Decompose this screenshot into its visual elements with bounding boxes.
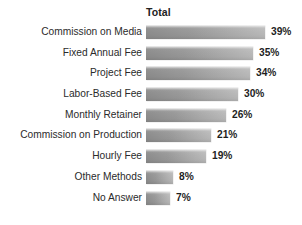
bar [146,66,250,80]
bar [146,149,206,163]
bar [146,25,265,39]
bar-wrapper [146,170,173,184]
category-label: Other Methods [75,169,142,184]
chart-row: Fixed Annual Fee35% [0,45,302,66]
bar [146,87,238,101]
bar [146,108,226,122]
bar [146,191,170,205]
plot-area: Commission on Media39%Fixed Annual Fee35… [0,24,302,220]
chart-row: Labor-Based Fee30% [0,86,302,107]
category-label: Labor-Based Fee [63,86,142,101]
bar-wrapper [146,25,265,39]
bar-wrapper [146,128,211,142]
bar [146,170,173,184]
chart-row: Commission on Media39% [0,24,302,45]
bar [146,128,211,142]
category-label: Commission on Media [41,24,142,39]
bar-value-label: 35% [259,45,279,60]
category-label: Fixed Annual Fee [63,45,142,60]
bar-value-label: 30% [244,86,264,101]
bar-wrapper [146,191,170,205]
bar [146,46,253,60]
chart-row: Hourly Fee19% [0,148,302,169]
chart-row: Commission on Production21% [0,127,302,148]
bar-wrapper [146,46,253,60]
bar-value-label: 34% [256,65,276,80]
bar-wrapper [146,66,250,80]
bar-value-label: 39% [271,24,291,39]
bar-value-label: 21% [217,127,237,142]
series-column-header: Total [146,6,171,18]
chart-row: Project Fee34% [0,65,302,86]
category-label: Project Fee [90,65,142,80]
category-label: No Answer [93,190,142,205]
bar-value-label: 26% [232,107,252,122]
chart-row: Other Methods8% [0,169,302,190]
category-label: Commission on Production [20,127,142,142]
bar-value-label: 7% [176,190,191,205]
bar-wrapper [146,87,238,101]
bar-value-label: 19% [212,148,232,163]
bar-chart: Total Commission on Media39%Fixed Annual… [0,0,302,225]
category-label: Monthly Retainer [65,107,142,122]
bar-wrapper [146,149,206,163]
bar-value-label: 8% [179,169,194,184]
chart-row: No Answer7% [0,190,302,211]
chart-row: Monthly Retainer26% [0,107,302,128]
bar-wrapper [146,108,226,122]
category-label: Hourly Fee [92,148,142,163]
